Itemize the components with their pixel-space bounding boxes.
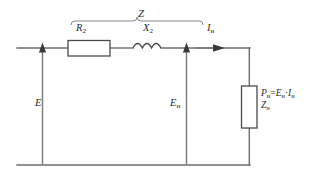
label-emf-e: E <box>35 98 41 109</box>
impedance-brace <box>71 17 203 25</box>
label-power-rhs-i-subscript: н <box>291 92 294 99</box>
load-zn-body <box>242 86 258 128</box>
resistor-r2-body <box>68 41 110 57</box>
label-load-impedance-zn: Zн <box>261 101 270 111</box>
label-in-symbol: I <box>207 22 211 33</box>
label-power-subscript: н <box>267 92 270 99</box>
label-resistor-r2: R2 <box>76 23 86 34</box>
label-x2-subscript: 2 <box>149 27 153 35</box>
label-en-subscript: н <box>176 102 180 110</box>
label-r2-subscript: 2 <box>82 27 86 35</box>
circuit-diagram: Z R2 X2 Iн E Eн Pн=Eн·Iн Zн <box>0 0 322 178</box>
label-in-subscript: н <box>211 27 215 35</box>
label-load-voltage-en: Eн <box>170 98 180 109</box>
label-inductor-x2: X2 <box>143 23 153 34</box>
current-arrow-head <box>213 44 225 52</box>
inductor-x2-coil <box>133 44 161 49</box>
label-current-in: Iн <box>207 23 214 34</box>
label-power-rhs-e-subscript: н <box>281 92 284 99</box>
label-impedance-z: Z <box>138 8 144 19</box>
label-power-symbol: P <box>261 88 267 98</box>
label-power-equation: Pн=Eн·Iн <box>261 89 295 99</box>
label-zn-subscript: н <box>266 104 269 111</box>
